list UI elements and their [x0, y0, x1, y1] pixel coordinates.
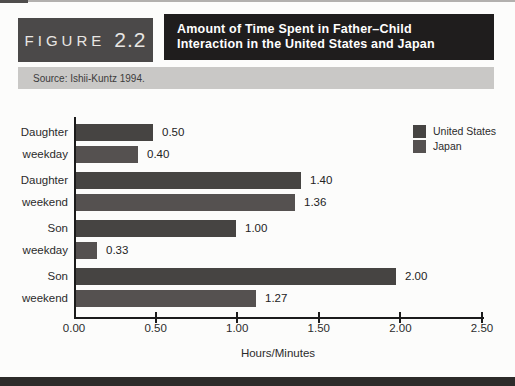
legend-label-japan: Japan [433, 140, 462, 153]
value-label-japan-son-weekday: 0.33 [106, 242, 128, 259]
value-label-united-states-son-weekend: 2.00 [405, 268, 427, 285]
x-axis-line [74, 317, 484, 319]
value-label-japan-daughter-weekend: 1.36 [304, 194, 326, 211]
tick-label-1-50: 1.50 [308, 322, 330, 334]
category-label-son-weekend-line-2: weekend [4, 290, 68, 307]
value-label-united-states-daughter-weekend: 1.40 [310, 172, 332, 189]
tick-label-0-00: 0.00 [63, 322, 85, 334]
tick-label-2-00: 2.00 [389, 322, 411, 334]
legend-row-japan: Japan [413, 140, 496, 153]
tick-label-1-00: 1.00 [226, 322, 248, 334]
category-label-son-weekend-line-1: Son [4, 268, 68, 285]
bar-japan-son-weekend [76, 290, 256, 307]
category-label-daughter-weekday-line-1: Daughter [4, 124, 68, 141]
bar-japan-daughter-weekend [76, 194, 295, 211]
category-label-son-weekday-line-2: weekday [4, 242, 68, 259]
value-label-japan-daughter-weekday: 0.40 [147, 146, 169, 163]
bar-united-states-son-weekday [76, 220, 236, 237]
legend: United StatesJapan [413, 125, 496, 155]
category-label-daughter-weekday-line-2: weekday [4, 146, 68, 163]
value-label-united-states-daughter-weekday: 0.50 [162, 124, 184, 141]
x-axis-title: Hours/Minutes [74, 347, 482, 359]
tick-label-0-50: 0.50 [144, 322, 166, 334]
bar-japan-daughter-weekday [76, 146, 138, 163]
tick-label-2-50: 2.50 [471, 322, 493, 334]
bar-united-states-daughter-weekday [76, 124, 153, 141]
bottom-rule [0, 377, 515, 386]
legend-row-united-states: United States [413, 125, 496, 138]
legend-swatch-united-states [413, 125, 426, 138]
value-label-japan-son-weekend: 1.27 [265, 290, 287, 307]
category-label-son-weekday-line-1: Son [4, 220, 68, 237]
bar-united-states-son-weekend [76, 268, 396, 285]
figure-page: FIGURE 2.2 Amount of Time Spent in Fathe… [0, 0, 515, 386]
legend-label-united-states: United States [433, 125, 496, 138]
bar-united-states-daughter-weekend [76, 172, 301, 189]
bar-chart: Hours/Minutes United StatesJapan 0.500.4… [0, 0, 515, 386]
value-label-united-states-son-weekday: 1.00 [245, 220, 267, 237]
bar-japan-son-weekday [76, 242, 97, 259]
legend-swatch-japan [413, 140, 426, 153]
category-label-daughter-weekend-line-2: weekend [4, 194, 68, 211]
category-label-daughter-weekend-line-1: Daughter [4, 172, 68, 189]
